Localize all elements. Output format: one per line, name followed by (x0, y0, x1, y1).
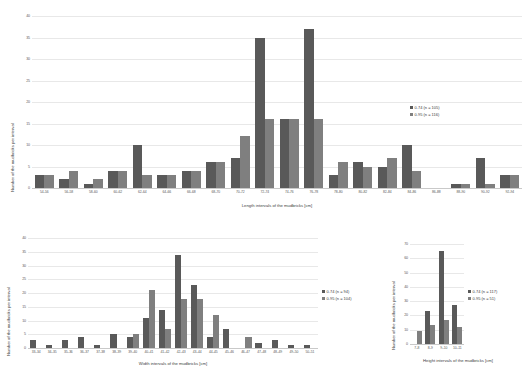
bar[interactable] (304, 29, 313, 188)
bar[interactable] (417, 331, 422, 344)
bar-category[interactable] (424, 244, 438, 344)
bar[interactable] (289, 119, 298, 188)
bar-category[interactable] (106, 16, 131, 188)
bar-category[interactable] (302, 16, 327, 188)
bar[interactable] (338, 162, 347, 188)
bar[interactable] (59, 179, 68, 188)
bar-category[interactable] (451, 244, 465, 344)
bar[interactable] (157, 175, 166, 188)
bar[interactable] (213, 315, 219, 348)
bar[interactable] (329, 175, 338, 188)
bar-category[interactable] (44, 238, 60, 348)
bar[interactable] (255, 38, 264, 189)
legend-item[interactable]: 0.95 (n = 51) (468, 295, 497, 302)
bar[interactable] (500, 175, 509, 188)
bar-category[interactable] (179, 16, 204, 188)
bar[interactable] (118, 171, 127, 188)
bar-category[interactable] (302, 238, 318, 348)
legend-item[interactable]: 0.95 (n = 104) (322, 295, 352, 302)
bar-category[interactable] (60, 238, 76, 348)
bar-category[interactable] (221, 238, 237, 348)
bar[interactable] (133, 145, 142, 188)
bar-category[interactable] (204, 16, 229, 188)
bar[interactable] (62, 340, 68, 348)
bar[interactable] (255, 343, 261, 349)
bar[interactable] (93, 179, 102, 188)
bar-category[interactable] (81, 16, 106, 188)
bar[interactable] (510, 175, 519, 188)
bar-category[interactable] (109, 238, 125, 348)
legend-item[interactable]: 0.74 (n = 94) (322, 288, 352, 295)
bar[interactable] (94, 345, 100, 348)
bar[interactable] (461, 184, 470, 188)
bar[interactable] (78, 337, 84, 348)
bar[interactable] (197, 299, 203, 349)
bar-category[interactable] (498, 16, 523, 188)
legend-item[interactable]: 0.74 (n = 105) (410, 104, 440, 111)
bar-category[interactable] (449, 16, 474, 188)
bar[interactable] (223, 329, 229, 348)
bar-category[interactable] (437, 244, 451, 344)
bar[interactable] (444, 320, 449, 344)
bar[interactable] (165, 329, 171, 348)
bar-category[interactable] (254, 238, 270, 348)
bar[interactable] (167, 175, 176, 188)
bar-category[interactable] (424, 16, 449, 188)
bar[interactable] (476, 158, 485, 188)
bar-category[interactable] (253, 16, 278, 188)
bar[interactable] (206, 162, 215, 188)
bar[interactable] (280, 119, 289, 188)
bar[interactable] (44, 175, 53, 188)
bar-category[interactable] (32, 16, 57, 188)
bar-category[interactable] (130, 16, 155, 188)
bar-category[interactable] (410, 244, 424, 344)
bar-category[interactable] (277, 16, 302, 188)
bar[interactable] (430, 325, 435, 344)
bar[interactable] (412, 171, 421, 188)
bar[interactable] (149, 290, 155, 348)
bar[interactable] (133, 334, 139, 348)
bar-category[interactable] (173, 238, 189, 348)
bar[interactable] (353, 162, 362, 188)
bar[interactable] (387, 158, 396, 188)
bar[interactable] (451, 184, 460, 188)
bar[interactable] (485, 184, 494, 188)
bar-category[interactable] (473, 16, 498, 188)
bar-category[interactable] (375, 16, 400, 188)
bar-category[interactable] (400, 16, 425, 188)
bar[interactable] (30, 340, 36, 348)
bar-category[interactable] (125, 238, 141, 348)
bar[interactable] (84, 184, 93, 188)
bar-category[interactable] (351, 16, 376, 188)
bar[interactable] (216, 162, 225, 188)
legend-item[interactable]: 0.95 (n = 116) (410, 111, 440, 118)
bar[interactable] (363, 167, 372, 189)
legend-item[interactable]: 0.74 (n = 117) (468, 288, 497, 295)
bar[interactable] (265, 119, 274, 188)
bar[interactable] (457, 327, 462, 344)
bar-category[interactable] (28, 238, 44, 348)
bar[interactable] (288, 345, 294, 348)
bar-category[interactable] (76, 238, 92, 348)
bar-category[interactable] (237, 238, 253, 348)
bar-category[interactable] (57, 16, 82, 188)
bar[interactable] (378, 167, 387, 189)
bar-category[interactable] (286, 238, 302, 348)
bar-category[interactable] (326, 16, 351, 188)
bar-category[interactable] (189, 238, 205, 348)
bar-category[interactable] (92, 238, 108, 348)
bar[interactable] (191, 171, 200, 188)
bar[interactable] (245, 337, 251, 348)
bar[interactable] (240, 136, 249, 188)
bar[interactable] (402, 145, 411, 188)
bar[interactable] (142, 175, 151, 188)
bar-category[interactable] (157, 238, 173, 348)
bar[interactable] (110, 334, 116, 348)
bar[interactable] (314, 119, 323, 188)
bar[interactable] (231, 158, 240, 188)
bar-category[interactable] (205, 238, 221, 348)
bar[interactable] (69, 171, 78, 188)
bar-category[interactable] (155, 16, 180, 188)
bar-category[interactable] (228, 16, 253, 188)
bar[interactable] (272, 340, 278, 348)
